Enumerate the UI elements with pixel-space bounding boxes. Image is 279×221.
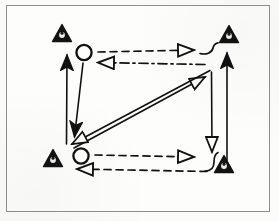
- solid-arrow-left-downward: [75, 63, 84, 137]
- solid-diagonal-arrow-lower-left: [72, 71, 210, 145]
- warning-triangle-bottom-left[interactable]: [44, 150, 63, 167]
- warning-triangle-top-left[interactable]: [53, 25, 72, 42]
- diagram-canvas: [0, 0, 279, 221]
- node-circle-upper[interactable]: [76, 45, 91, 60]
- connector-layer: [67, 43, 228, 172]
- solid-diagonal-arrow-upper-right: [74, 77, 205, 148]
- node-circle-lower[interactable]: [73, 148, 88, 163]
- hook-connector-bottom-right: [205, 153, 218, 171]
- warning-triangle-top-right[interactable]: [220, 26, 239, 43]
- hook-connector-top-right: [200, 43, 218, 54]
- figure-root: Cyclic process flow diagram with warning…: [0, 0, 279, 221]
- dash-dot-arrow-top-leftward: [98, 63, 205, 65]
- warning-triangle-bottom-right[interactable]: [215, 156, 234, 173]
- dashed-arrow-top-rightward: [98, 50, 194, 52]
- node-layer: [44, 25, 239, 173]
- solid-arrow-right-downward: [212, 72, 213, 152]
- dashed-arrow-bottom-leftward: [77, 169, 207, 172]
- solid-arrow-left-upward: [67, 55, 68, 144]
- dashed-arrow-bottom-rightward: [95, 155, 194, 157]
